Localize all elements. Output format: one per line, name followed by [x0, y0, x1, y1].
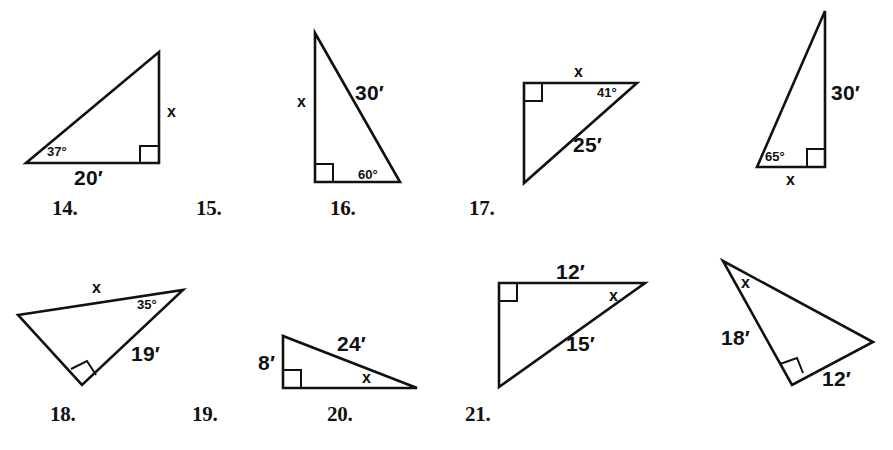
side-25-label: 25′: [573, 134, 602, 155]
triangle-figure-14: [26, 52, 159, 163]
figure-number-label: 20.: [327, 402, 352, 427]
right-angle-mark-icon: [71, 361, 96, 375]
side-24-label: 24′: [337, 333, 366, 354]
figure-number-label: 14.: [52, 196, 77, 221]
figure-number-label: 17.: [469, 196, 494, 221]
angle-35-label: 35°: [137, 298, 157, 311]
figure-number-label: 18.: [50, 402, 75, 427]
right-angle-mark-icon: [524, 83, 542, 101]
angle-65-label: 65°: [765, 150, 785, 163]
side-18-label: 18′: [721, 327, 750, 348]
side-20-label: 20′: [74, 167, 103, 188]
variable-x-label: x: [297, 94, 306, 110]
triangle-figure-15: [315, 33, 400, 182]
variable-x-label: x: [786, 172, 795, 188]
triangle-outline: [315, 33, 400, 182]
side-30-label: 30′: [831, 82, 860, 103]
variable-x-label: x: [574, 64, 583, 80]
figure-number-label: 15.: [196, 196, 221, 221]
right-angle-mark-icon: [499, 283, 517, 301]
right-angle-mark-icon: [315, 164, 333, 182]
variable-x-label: x: [741, 275, 750, 291]
triangle-figure-17: [757, 11, 825, 167]
angle-37-label: 37°: [47, 145, 67, 158]
side-30-label: 30′: [355, 82, 384, 103]
triangle-figure-18: [18, 290, 183, 385]
figure-number-label: 21.: [465, 402, 490, 427]
side-8-label: 8′: [258, 352, 275, 373]
side-19-label: 19′: [131, 343, 160, 364]
variable-x-label: x: [167, 104, 176, 120]
right-angle-mark-icon: [140, 146, 159, 163]
side-15-label: 15′: [566, 333, 595, 354]
triangle-figures-layer: [0, 0, 893, 450]
variable-x-label: x: [92, 280, 101, 296]
figure-number-label: 16.: [330, 196, 355, 221]
right-angle-mark-icon: [807, 149, 825, 167]
triangle-outline: [757, 11, 825, 167]
angle-60-label: 60°: [358, 168, 378, 181]
figure-number-label: 19.: [192, 402, 217, 427]
variable-x-label: x: [609, 288, 618, 304]
side-12-label: 12′: [822, 368, 851, 389]
triangle-outline: [18, 290, 183, 385]
angle-41-label: 41°: [597, 86, 617, 99]
side-12-label: 12′: [556, 261, 585, 282]
right-angle-mark-icon: [283, 370, 301, 388]
worksheet-canvas: 37°20′x14.x30′60°15.x41°25′16.65°30′x17.…: [0, 0, 893, 450]
variable-x-label: x: [362, 370, 371, 386]
